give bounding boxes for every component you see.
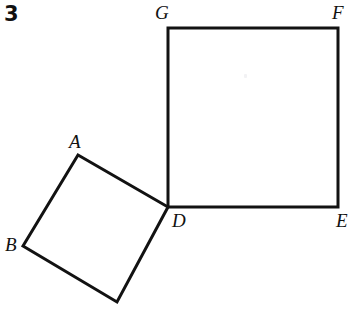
scan-artifact-speck bbox=[244, 74, 247, 78]
geometry-figure: 3 G F A D E B bbox=[0, 0, 352, 309]
vertex-label-B: B bbox=[5, 235, 17, 254]
vertex-label-E: E bbox=[336, 211, 348, 230]
vertex-label-D: D bbox=[172, 211, 186, 230]
figure-drawing bbox=[0, 0, 352, 309]
square-DEFG-outline bbox=[168, 28, 338, 207]
vertex-label-F: F bbox=[332, 3, 344, 22]
tilted-square-ABD-outline bbox=[23, 155, 168, 302]
vertex-label-A: A bbox=[69, 132, 81, 151]
vertex-label-G: G bbox=[155, 3, 169, 22]
